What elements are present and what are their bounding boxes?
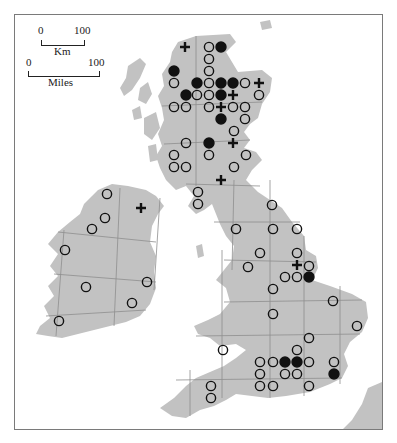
filled-circle-icon [169,66,179,76]
filled-circle-icon [228,78,238,88]
filled-circle-icon [304,272,314,282]
km-scale-bar: 0 100 Km [30,22,110,58]
miles-scale-end: 100 [88,56,105,68]
filled-circle-icon [192,78,202,88]
km-scale-start: 0 [38,24,44,36]
filled-circle-icon [216,78,226,88]
filled-circle-icon [181,90,191,100]
france-landmass [342,382,382,430]
filled-circle-icon [204,138,214,148]
filled-circle-icon [216,90,226,100]
miles-scale-bar: 0 100 Miles [24,54,114,90]
miles-scale-start: 0 [26,56,32,68]
filled-circle-icon [280,357,290,367]
km-scale-end: 100 [74,24,91,36]
filled-circle-icon [216,114,226,124]
filled-circle-icon [292,357,302,367]
open-circle-icon [218,345,227,354]
filled-circle-icon [329,369,339,379]
miles-scale-unit: Miles [48,76,73,88]
filled-circle-icon [216,42,226,52]
